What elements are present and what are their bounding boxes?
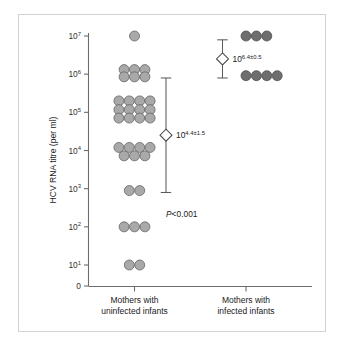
- data-point: [119, 72, 129, 82]
- y-axis-title: HCV RNA titre (per ml): [48, 116, 58, 203]
- data-point: [130, 222, 140, 232]
- data-point: [130, 72, 140, 82]
- mean-value-label: 106.4±0.5: [233, 54, 263, 65]
- data-point: [119, 222, 129, 232]
- data-point: [272, 71, 282, 81]
- data-points-group: [114, 31, 282, 270]
- y-tick-label: 101: [68, 260, 81, 271]
- y-tick-label: 104: [68, 145, 81, 156]
- mean-diamond-marker: [160, 129, 172, 141]
- mean-diamond-markers: [160, 53, 229, 141]
- category-label-1-line-2: uninfected infants: [101, 306, 168, 316]
- y-tick-label: 105: [68, 107, 81, 118]
- data-point: [135, 186, 145, 196]
- data-point: [135, 113, 145, 123]
- y-tick-label: 102: [68, 221, 81, 232]
- data-point: [251, 71, 261, 81]
- category-label-1-line-1: Mothers with: [110, 295, 158, 305]
- category-axis-labels: Mothers withuninfected infantsMothers wi…: [101, 295, 274, 316]
- data-point: [130, 31, 140, 41]
- mean-value-labels: 104.4±1.5106.4±0.5: [176, 54, 262, 141]
- category-ticks: [135, 287, 247, 292]
- data-point: [262, 31, 272, 41]
- p-value-annotation: P<0.001: [166, 209, 198, 219]
- category-label-2-line-2: infected infants: [217, 306, 274, 316]
- data-point: [124, 113, 134, 123]
- data-point: [145, 113, 155, 123]
- category-label-2-line-1: Mothers with: [222, 295, 270, 305]
- data-point: [135, 260, 145, 270]
- y-axis-ticks: [84, 36, 89, 286]
- data-point: [130, 151, 140, 161]
- data-point: [114, 113, 124, 123]
- data-point: [140, 222, 150, 232]
- data-point: [140, 151, 150, 161]
- plot-canvas: 0101102103104105106107 HCV RNA titre (pe…: [0, 0, 345, 346]
- data-point: [241, 71, 251, 81]
- data-point: [119, 151, 129, 161]
- y-tick-label: 0: [76, 281, 81, 291]
- data-point: [262, 71, 272, 81]
- data-point: [124, 186, 134, 196]
- data-point: [241, 31, 251, 41]
- mean-diamond-marker: [217, 53, 229, 65]
- y-axis-tick-labels: 0101102103104105106107: [68, 31, 81, 292]
- data-point: [251, 31, 261, 41]
- error-bars-group: [161, 40, 228, 193]
- mean-value-label: 104.4±1.5: [176, 130, 206, 141]
- y-tick-label: 107: [68, 31, 81, 42]
- scatter-plot-figure: 0101102103104105106107 HCV RNA titre (pe…: [0, 0, 345, 346]
- annotations-group: P<0.001: [166, 209, 198, 219]
- data-point: [140, 72, 150, 82]
- y-tick-label: 103: [68, 183, 81, 194]
- y-tick-label: 106: [68, 69, 81, 80]
- data-point: [124, 260, 134, 270]
